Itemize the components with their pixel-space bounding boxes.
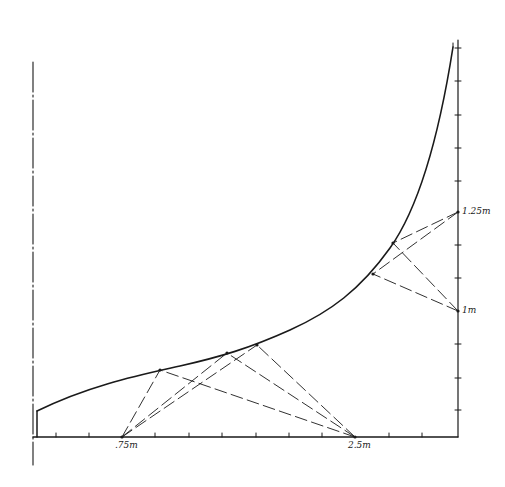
construction-line [257,345,355,437]
construction-line [373,274,458,311]
construction-line [393,243,458,311]
construction-line [122,353,227,437]
construction-line [373,212,458,274]
point-marker [255,343,258,346]
construction-points [120,210,459,438]
label-075m: .75m [115,440,138,450]
point-marker [225,351,228,354]
construction-line [122,370,160,437]
construction-lines [122,212,458,437]
label-25m: 2.5m [348,440,371,450]
point-marker [158,368,161,371]
point-marker [391,241,394,244]
label-1m: 1m [462,305,476,315]
profile-curve [37,47,453,411]
point-marker [120,435,123,438]
point-marker [456,309,459,312]
construction-line [227,353,355,437]
diagram-canvas [0,0,505,487]
construction-line [122,345,257,437]
construction-line [160,370,355,437]
point-marker [456,210,459,213]
point-marker [371,272,374,275]
label-125m: 1.25m [462,206,491,216]
point-marker [353,435,356,438]
